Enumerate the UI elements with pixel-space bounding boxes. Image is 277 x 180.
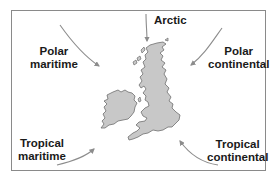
tropical-maritime-label-line2: maritime [18, 150, 66, 163]
polar-continental-label: Polar continental [208, 45, 269, 71]
polar-maritime-label-line2: maritime [30, 58, 78, 71]
tropical-continental-label-line1: Tropical [207, 138, 268, 151]
tropical-continental-label-line2: continental [207, 151, 268, 164]
tropical-continental-label: Tropical continental [207, 138, 268, 164]
arctic-label: Arctic [154, 14, 187, 27]
polar-continental-label-line1: Polar [208, 45, 269, 58]
tropical-maritime-label-line1: Tropical [18, 137, 66, 150]
polar-maritime-label: Polar maritime [30, 45, 78, 71]
tropical-maritime-label: Tropical maritime [18, 137, 66, 163]
polar-maritime-label-line1: Polar [30, 45, 78, 58]
polar-continental-label-line2: continental [208, 58, 269, 71]
arctic-label-line1: Arctic [154, 14, 187, 27]
